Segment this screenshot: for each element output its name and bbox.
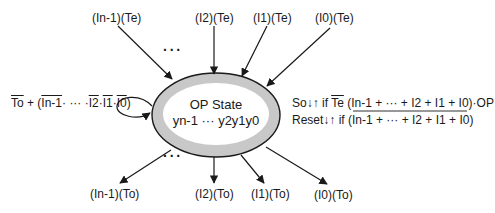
- bottom-ellipsis: ···: [163, 151, 183, 161]
- arrow-in-0: [267, 28, 330, 86]
- self-loop-plus: + (: [24, 96, 42, 110]
- self-loop-close: ): [127, 96, 131, 110]
- so-condition: So↓↑ if Te (In-1 + ··· + I2 + I1 + I0)·O…: [292, 96, 494, 110]
- reset-condition: Reset↓↑ if (In-1 + ··· + I2 + I1 + I0): [292, 113, 473, 127]
- state-title: OP State: [166, 97, 266, 112]
- output-label-i1: (I1)(To): [251, 187, 290, 201]
- output-label-in-n-1: (In-1)(To): [90, 187, 139, 201]
- so-expression: (In-1 + ··· + I2 + I1 + I0)·OP: [344, 96, 494, 110]
- i0-bar: I0: [117, 96, 127, 110]
- input-label-i0: (I0)(Te): [315, 11, 354, 25]
- in-1-bar: In-1: [41, 96, 62, 110]
- arrow-out-1: [241, 155, 264, 183]
- i1-bar: I1: [103, 96, 113, 110]
- i2-bar: I2: [89, 96, 99, 110]
- output-label-i2: (I2)(To): [195, 187, 234, 201]
- state-diagram: (In-1)(Te) (I2)(Te) (I1)(Te) (I0)(Te) ··…: [0, 0, 495, 213]
- output-label-i0: (I0)(To): [314, 188, 353, 202]
- reset-prefix: Reset↓↑ if: [292, 113, 348, 127]
- state-bits: yn-1 ··· y2y1y0: [156, 113, 276, 128]
- input-label-in-n-1: (In-1)(Te): [92, 11, 141, 25]
- arrow-in-1: [242, 26, 267, 76]
- to-bar: To: [11, 96, 24, 110]
- top-ellipsis: ···: [163, 45, 183, 55]
- self-loop-mid: · ··· ·: [62, 96, 89, 110]
- arrow-out-0: [266, 147, 327, 184]
- reset-expression: (In-1 + ··· + I2 + I1 + I0): [348, 113, 473, 127]
- input-label-i2: (I2)(Te): [195, 11, 234, 25]
- self-loop-condition: To + (In-1· ··· ·I2·I1·I0): [11, 96, 131, 110]
- input-label-i1: (I1)(Te): [253, 11, 292, 25]
- so-prefix: So↓↑ if: [292, 96, 331, 110]
- te-bar: Te: [331, 96, 344, 110]
